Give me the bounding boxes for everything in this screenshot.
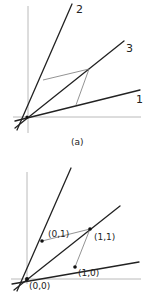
line-3-label: 3 bbox=[126, 42, 133, 55]
diagram-canvas: 2 3 1 (a) (0,1) (1,1) (1,0) (0,0) bbox=[0, 0, 147, 292]
panel-a: 2 3 1 (a) bbox=[13, 3, 143, 147]
line-3 bbox=[15, 41, 124, 128]
point-1-1 bbox=[88, 227, 92, 231]
label-0-1: (0,1) bbox=[48, 229, 69, 239]
label-1-0: (1,0) bbox=[78, 268, 99, 278]
point-0-1 bbox=[40, 239, 44, 243]
line-2-label: 2 bbox=[76, 3, 83, 16]
line-2 bbox=[17, 4, 72, 130]
line-3 bbox=[14, 206, 120, 290]
panel-b: (0,1) (1,1) (1,0) (0,0) bbox=[11, 168, 141, 291]
label-0-0: (0,0) bbox=[29, 281, 50, 291]
point-1-0 bbox=[73, 265, 77, 269]
line-1 bbox=[15, 90, 140, 121]
label-1-1: (1,1) bbox=[94, 232, 115, 242]
panel-a-caption: (a) bbox=[71, 137, 84, 147]
parallel-to-line-2 bbox=[75, 229, 90, 267]
origin-point bbox=[25, 115, 28, 118]
line-1-label: 1 bbox=[136, 93, 143, 106]
